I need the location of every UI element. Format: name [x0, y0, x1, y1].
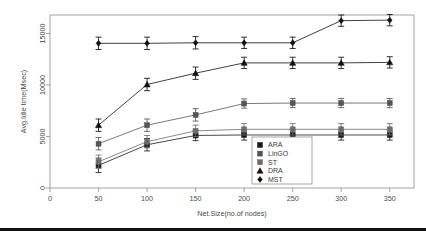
x-tick-label: 250	[287, 194, 299, 203]
data-point-marker	[290, 127, 295, 132]
data-point-marker	[387, 17, 392, 23]
y-tick-label: 15000	[38, 24, 47, 44]
data-point-marker	[290, 101, 295, 106]
legend-item-lingo[interactable]: LinGO	[258, 150, 289, 157]
data-point-marker	[242, 101, 247, 106]
x-tick-label: 300	[335, 194, 347, 203]
series-line	[99, 62, 390, 125]
x-tick-label: 150	[190, 194, 202, 203]
legend-item-label: LinGO	[268, 150, 289, 157]
legend-item-ara[interactable]: ARA	[258, 141, 283, 148]
x-tick-label: 350	[384, 194, 396, 203]
x-tick-label: 50	[95, 194, 103, 203]
legend-item-st[interactable]: ST	[258, 159, 278, 166]
x-tick-label: 100	[141, 194, 153, 203]
data-point-marker	[242, 40, 247, 46]
data-point-marker	[242, 127, 247, 132]
data-point-marker	[339, 127, 344, 132]
y-tick-label: 10000	[38, 75, 47, 95]
legend-item-label: ARA	[268, 141, 283, 148]
series-mst	[96, 14, 393, 49]
legend-item-label: DRA	[268, 167, 283, 174]
chart-figure: 050001000015000050100150200250300350Net.…	[0, 0, 426, 237]
y-axis-title: Avg.Idle time(Msec)	[19, 70, 28, 133]
data-point-marker	[387, 127, 392, 132]
plot-frame	[50, 15, 414, 188]
x-axis-title: Net.Size(no.of nodes)	[197, 209, 267, 218]
line-chart-plot: 050001000015000050100150200250300350Net.…	[0, 0, 426, 237]
data-point-marker	[339, 101, 344, 106]
data-point-marker	[290, 40, 295, 46]
data-point-marker	[339, 18, 344, 24]
data-point-marker	[145, 123, 150, 128]
data-point-marker	[193, 128, 198, 133]
data-point-marker	[258, 151, 263, 156]
chart-legend: ARALinGOSTDRAMST	[252, 137, 312, 184]
x-tick-label: 0	[48, 194, 52, 203]
data-point-marker	[258, 160, 263, 165]
bottom-divider-rule	[0, 228, 426, 231]
data-point-marker	[193, 40, 198, 46]
data-point-marker	[145, 139, 150, 144]
data-point-marker	[96, 40, 101, 46]
data-point-marker	[96, 141, 101, 146]
data-point-marker	[96, 159, 101, 164]
series-st	[96, 124, 393, 169]
data-point-marker	[387, 101, 392, 106]
data-point-marker	[258, 143, 263, 148]
data-point-marker	[145, 40, 150, 46]
series-dra	[95, 57, 392, 132]
x-tick-label: 200	[238, 194, 250, 203]
y-tick-label: 0	[38, 186, 47, 190]
data-point-marker	[193, 112, 198, 117]
series-ara	[96, 130, 393, 173]
y-tick-label: 5000	[38, 129, 47, 145]
legend-item-label: ST	[268, 159, 278, 166]
legend-item-label: MST	[268, 176, 284, 183]
